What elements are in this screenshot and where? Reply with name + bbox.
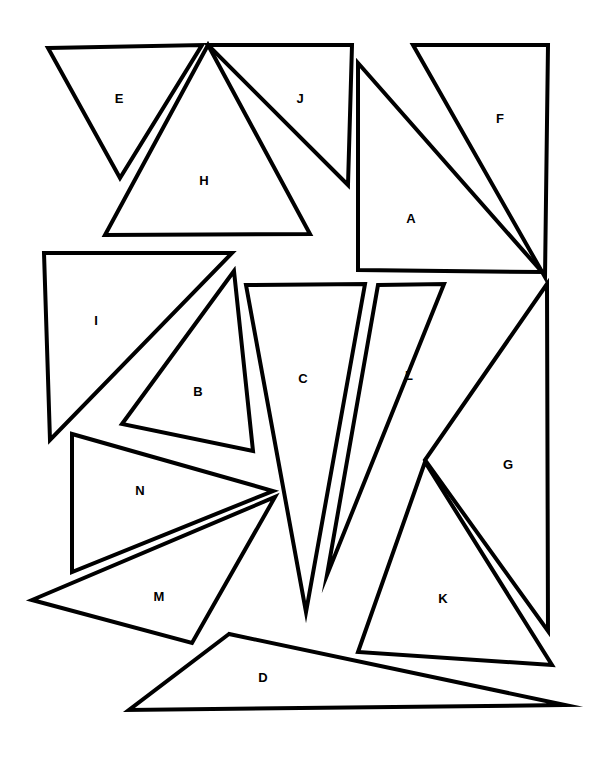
triangle-label-G: G [503,457,513,472]
triangle-label-E: E [115,91,124,106]
triangle-diagram: E H J F A I B C [0,0,598,757]
triangle-label-F: F [496,111,504,126]
triangle-label-C: C [298,371,308,386]
triangle-label-A: A [406,211,416,226]
triangle-label-D: D [258,670,267,685]
triangle-label-J: J [296,91,303,106]
triangle-label-N: N [135,483,144,498]
triangle-label-B: B [193,384,202,399]
triangle-label-H: H [199,173,208,188]
triangle-label-K: K [438,591,448,606]
triangle-label-M: M [154,589,165,604]
triangle-label-I: I [94,313,98,328]
triangle-canvas: E H J F A I B C [0,0,598,757]
triangle-label-L: L [405,368,413,383]
